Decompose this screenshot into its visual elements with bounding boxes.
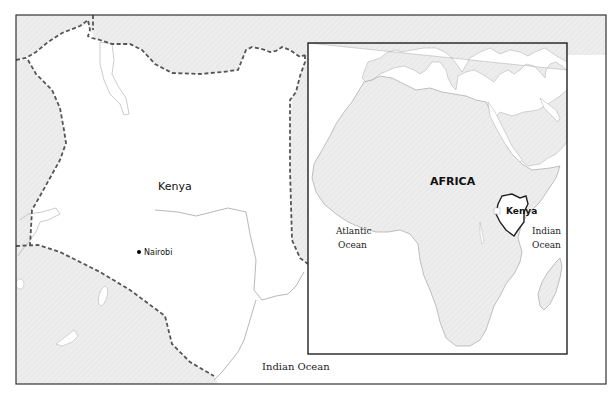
nairobi-dot bbox=[137, 250, 141, 254]
inset-map: AFRICA Kenya Atlantic Ocean Indian Ocean bbox=[308, 43, 567, 354]
kenya-location-map: Kenya Nairobi Indian Ocean bbox=[0, 0, 609, 399]
indian-ocean-label: Indian Ocean bbox=[262, 361, 330, 372]
kenya-label: Kenya bbox=[158, 180, 192, 193]
atlantic-ocean-label-line2: Ocean bbox=[338, 240, 367, 250]
indian-ocean-inset-label-line2: Ocean bbox=[532, 240, 561, 250]
africa-label: AFRICA bbox=[430, 175, 476, 188]
nairobi-label: Nairobi bbox=[144, 248, 172, 257]
indian-ocean-inset-label-line1: Indian bbox=[532, 226, 561, 236]
inset-kenya-label: Kenya bbox=[506, 206, 537, 216]
lake bbox=[16, 279, 24, 289]
atlantic-ocean-label-line1: Atlantic bbox=[335, 226, 372, 236]
